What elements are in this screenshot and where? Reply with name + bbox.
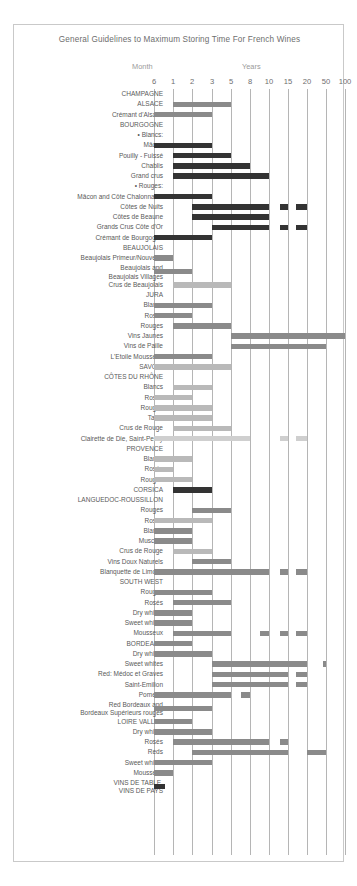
poster-page: General Guidelines to Maximum Storing Ti… <box>0 0 357 886</box>
bar-segment <box>154 760 212 765</box>
row-label: Mousseux <box>133 628 163 638</box>
bar-segment <box>212 661 307 666</box>
bar-segment <box>154 719 192 724</box>
row-label: CHAMPAGNE <box>122 89 163 99</box>
bar-segment <box>154 569 269 574</box>
bar-segment <box>296 204 307 209</box>
row-label: ALSACE <box>137 99 163 109</box>
table-row: Chablis <box>14 161 345 171</box>
table-row: JURA <box>14 290 345 300</box>
table-row: Rouges <box>14 587 345 597</box>
bar-segment <box>260 631 270 636</box>
bar-segment <box>192 204 269 209</box>
bar-segment <box>307 750 326 755</box>
row-label: • Blancs: <box>138 130 163 140</box>
table-row: Rosés <box>14 464 345 474</box>
table-row: Rosés <box>14 737 345 747</box>
bar-segment <box>173 173 269 178</box>
table-row: Dry whites <box>14 727 345 737</box>
bar-segment <box>192 559 231 564</box>
table-row: CORSICA <box>14 485 345 495</box>
table-row: CHAMPAGNE <box>14 89 345 99</box>
bar-segment <box>154 467 173 472</box>
table-row: LOIRE VALLEY <box>14 717 345 727</box>
row-label: BOURGOGNE <box>120 120 163 130</box>
table-row: BEAUJOLAIS <box>14 243 345 253</box>
row-label: Vins Jaunes <box>128 331 163 341</box>
bar-segment <box>212 225 269 230</box>
row-label: Rosés <box>145 598 163 608</box>
row-label: Vins Doux Naturels <box>107 557 163 567</box>
row-label: Pouilly - Fuissé <box>119 151 163 161</box>
axis-tick-50: 50 <box>317 77 335 86</box>
row-label: Crus de Rouge <box>119 546 163 556</box>
table-row: Saint-Emilion <box>14 680 345 690</box>
row-label: CORSICA <box>133 485 163 495</box>
bar-segment <box>154 235 212 240</box>
table-row: Grand crus <box>14 171 345 181</box>
row-label: LANGUEDOC-ROUSSILLON <box>78 495 163 505</box>
bar-segment <box>173 600 231 605</box>
bar-segment <box>154 784 165 789</box>
bar-segment <box>173 426 231 431</box>
axis-tick-20: 20 <box>298 77 316 86</box>
bar-segment <box>154 112 212 117</box>
row-label: SOUTH WEST <box>120 577 163 587</box>
table-row: • Blancs: <box>14 130 345 140</box>
bar-segment <box>296 672 307 677</box>
table-row: L'Etoile Mousseux <box>14 352 345 362</box>
table-row: Rouges <box>14 321 345 331</box>
axis-tick-1: 1 <box>164 77 182 86</box>
axis-tick-5: 5 <box>222 77 240 86</box>
table-row: Red Bordeaux andBordeaux Supérieurs roug… <box>14 700 345 717</box>
table-row: Crémant d'Alsace <box>14 110 345 120</box>
bar-segment <box>154 729 212 734</box>
bar-segment <box>154 518 212 523</box>
bar-segment <box>154 528 192 533</box>
table-row: BORDEAUX <box>14 639 345 649</box>
table-row: Rosés <box>14 598 345 608</box>
table-row: Red: Médoc et Graves <box>14 669 345 679</box>
axis-tick-15: 15 <box>279 77 297 86</box>
row-label: Red: Médoc et Graves <box>98 669 163 679</box>
bar-segment <box>154 354 212 359</box>
row-label: Reds <box>148 747 163 757</box>
axis-tick-3: 3 <box>203 77 221 86</box>
bar-segment <box>323 661 326 666</box>
row-label: Clairette de Die, Saint-Peray <box>81 434 163 444</box>
row-label: Côtes de Nuits <box>120 202 163 212</box>
bar-segment <box>154 143 212 148</box>
row-label: Saint-Emilion <box>125 680 163 690</box>
table-row: Crus de Rouge <box>14 546 345 556</box>
chart-rows: CHAMPAGNEALSACECrémant d'AlsaceBOURGOGNE… <box>14 89 345 795</box>
row-label: Crus de Beaujolais <box>108 280 163 290</box>
bar-segment <box>154 269 192 274</box>
row-label: PROVENCE <box>127 444 163 454</box>
axis-tick-6: 6 <box>145 77 163 86</box>
bar-segment <box>154 651 212 656</box>
bar-segment <box>154 770 173 775</box>
gridline-100 <box>345 89 346 855</box>
table-row: Sweet whites <box>14 758 345 768</box>
bar-segment <box>173 282 231 287</box>
bar-segment <box>173 163 250 168</box>
row-label: Crémant de Bourgogne <box>95 233 163 243</box>
bar-segment <box>154 303 212 308</box>
table-row: Mâcon and Côte Chalonnaise <box>14 192 345 202</box>
bar-segment <box>173 153 231 158</box>
bar-segment <box>154 590 212 595</box>
row-label: • Rouges: <box>135 181 163 191</box>
row-label: Grands Crus Côte d'Or <box>97 222 163 232</box>
row-label: Blancs <box>143 382 163 392</box>
bar-segment <box>154 405 212 410</box>
row-label: Rouges <box>141 505 163 515</box>
row-label: JURA <box>146 290 163 300</box>
bar-segment <box>154 415 212 420</box>
bar-segment <box>154 620 192 625</box>
table-row: Blancs <box>14 454 345 464</box>
bar-segment <box>154 692 231 697</box>
table-row: Crus de Rouge <box>14 423 345 433</box>
page-title: General Guidelines to Maximum Storing Ti… <box>14 35 345 44</box>
axis-group-label-month: Month <box>132 62 153 71</box>
table-row: Mousseux <box>14 768 345 778</box>
